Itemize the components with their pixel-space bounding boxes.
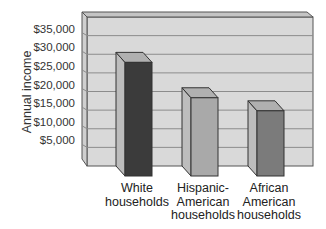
bar-2 [182, 88, 218, 176]
bar-side-face [248, 101, 257, 176]
bar-1 [116, 52, 152, 176]
bar-3 [248, 101, 284, 176]
bar-chart: $5,000$10,000$15,000$20,000$25,000$30,00… [0, 0, 326, 229]
y-tick-label: $35,000 [33, 23, 75, 35]
category-label-line: Hispanic- [177, 181, 229, 195]
y-tick-label: $25,000 [33, 60, 75, 72]
y-tick-label: $5,000 [40, 134, 75, 146]
y-axis-title: Annual income [20, 51, 34, 134]
y-tick-label: $30,000 [33, 41, 75, 53]
top-ledge [82, 12, 313, 17]
y-tick-label: $10,000 [33, 116, 75, 128]
bar-front-face [191, 98, 218, 176]
category-label: Whitehouseholds [105, 181, 169, 209]
category-label-line: African [250, 181, 289, 195]
y-tick-label: $15,000 [33, 97, 75, 109]
category-label-line: American [177, 195, 230, 209]
category-label-line: White [121, 181, 153, 195]
category-label: AfricanAmericanhouseholds [237, 181, 301, 222]
category-label-line: households [171, 208, 235, 222]
y-axis-tick-labels: $5,000$10,000$15,000$20,000$25,000$30,00… [33, 23, 75, 147]
bar-front-face [257, 111, 284, 176]
x-axis-category-labels: WhitehouseholdsHispanic-Americanhousehol… [105, 181, 301, 222]
bar-side-face [116, 52, 125, 176]
bar-front-face [125, 62, 152, 176]
y-tick-label: $20,000 [33, 79, 75, 91]
bar-side-face [182, 88, 191, 176]
category-label-line: American [243, 195, 296, 209]
category-label: Hispanic-Americanhouseholds [171, 181, 235, 222]
category-label-line: households [105, 195, 169, 209]
category-label-line: households [237, 208, 301, 222]
